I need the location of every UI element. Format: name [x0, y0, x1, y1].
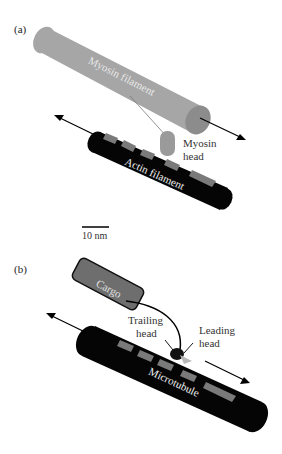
- trailing-head-label-line1: Trailing: [128, 314, 163, 327]
- leading-head-label-line1: Leading: [199, 324, 235, 337]
- trailing-head-label-line2: head: [128, 327, 163, 340]
- myosin-head-label-line1: Myosin: [183, 137, 217, 150]
- leading-head: [180, 355, 192, 364]
- leading-head-label: Leading head: [199, 324, 235, 350]
- scale-bar-label: 10 nm: [82, 229, 107, 242]
- leading-head-pointer: [184, 343, 193, 353]
- myosin-head: [160, 131, 175, 156]
- myosin-head-label: Myosin head: [183, 137, 217, 163]
- trailing-head-pointer: [165, 340, 173, 350]
- panel-a-label: (a): [14, 23, 26, 36]
- arrow-left-b-icon: [46, 313, 87, 333]
- trailing-head-label: Trailing head: [128, 314, 163, 340]
- arrow-left-a-icon: [54, 115, 95, 135]
- myosin-head-label-line2: head: [183, 150, 217, 163]
- panel-b-label: (b): [14, 263, 27, 276]
- diagram-canvas: [0, 0, 282, 454]
- leading-head-label-line2: head: [199, 337, 235, 350]
